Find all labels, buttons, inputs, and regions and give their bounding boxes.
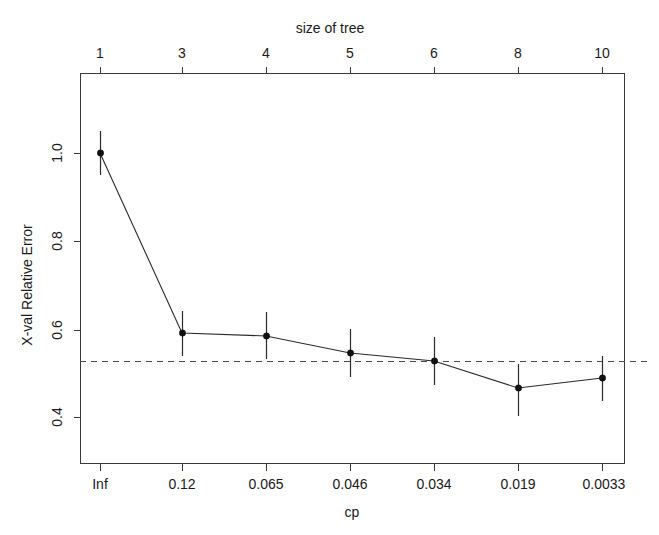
top-tick-label-3: 5 (346, 45, 354, 61)
data-point (263, 333, 269, 339)
bottom-tick-label-4: 0.034 (416, 476, 451, 492)
top-axis-ticks (101, 67, 603, 74)
top-tick-label-5: 8 (514, 45, 522, 61)
plot-box-border (81, 74, 625, 464)
bottom-tick-label-1: 0.12 (168, 476, 195, 492)
rpart-cp-plot: 1 3 4 5 6 8 10 size of tree Inf 0.12 0.0… (0, 0, 659, 535)
bottom-tick-label-6: 0.0033 (583, 476, 626, 492)
bottom-tick-label-3: 0.046 (332, 476, 367, 492)
bottom-axis-ticks (101, 464, 603, 471)
y-axis-tick-labels: 0.4 0.6 0.8 1.0 (49, 143, 65, 427)
y-tick-label-1: 0.6 (49, 320, 65, 340)
top-axis-title: size of tree (296, 20, 365, 36)
x-axis-title: cp (345, 504, 360, 520)
data-point (599, 375, 605, 381)
data-point (515, 385, 521, 391)
bottom-tick-label-5: 0.019 (500, 476, 535, 492)
data-point (431, 358, 437, 364)
chart-canvas: 1 3 4 5 6 8 10 size of tree Inf 0.12 0.0… (0, 0, 659, 535)
data-point (97, 150, 103, 156)
y-tick-label-3: 1.0 (49, 143, 65, 163)
error-bars (101, 131, 603, 416)
y-axis-ticks (74, 154, 81, 418)
y-tick-label-0: 0.4 (49, 407, 65, 427)
top-tick-label-0: 1 (96, 45, 104, 61)
top-tick-label-6: 10 (594, 45, 610, 61)
y-axis-title: X-val Relative Error (19, 224, 35, 346)
y-tick-label-2: 0.8 (49, 231, 65, 251)
bottom-axis-tick-labels: Inf 0.12 0.065 0.046 0.034 0.019 0.0033 (92, 476, 625, 492)
top-axis-tick-labels: 1 3 4 5 6 8 10 (96, 45, 610, 61)
bottom-tick-label-0: Inf (92, 476, 108, 492)
data-point (179, 330, 185, 336)
top-tick-label-4: 6 (430, 45, 438, 61)
data-point (347, 350, 353, 356)
top-tick-label-1: 3 (178, 45, 186, 61)
data-points (97, 150, 605, 391)
bottom-tick-label-2: 0.065 (248, 476, 283, 492)
top-tick-label-2: 4 (262, 45, 270, 61)
